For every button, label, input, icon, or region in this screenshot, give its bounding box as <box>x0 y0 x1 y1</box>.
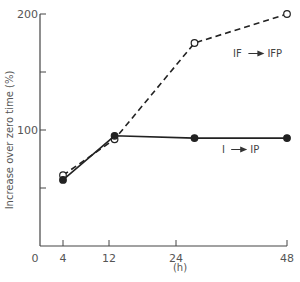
series-label-from: I <box>222 144 225 155</box>
filled-circle-marker <box>111 133 118 140</box>
filled-circle-marker <box>284 135 291 142</box>
x-axis-label: (h) <box>173 262 187 273</box>
series-label-to: IP <box>250 144 259 155</box>
series-label-to: IFP <box>267 48 282 59</box>
axes: 10020004122448(h)Increase over zero time… <box>4 8 294 273</box>
series-line-1 <box>63 136 287 180</box>
series-label-i-ip: IIP <box>222 144 259 155</box>
x-tick-label: 0 <box>32 252 39 265</box>
x-tick-label: 12 <box>102 252 116 265</box>
filled-circle-marker <box>60 177 67 184</box>
open-circle-marker <box>191 40 198 47</box>
labels-layer: IFIFPIIP <box>222 48 282 155</box>
arrow-head-icon <box>240 147 247 153</box>
line-chart: 10020004122448(h)Increase over zero time… <box>0 0 300 282</box>
filled-circle-marker <box>191 135 198 142</box>
series-label-from: IF <box>233 48 242 59</box>
x-tick-label: 4 <box>60 252 67 265</box>
series-label-if-ifp: IFIFP <box>233 48 282 59</box>
arrow-head-icon <box>257 51 264 57</box>
y-tick-label: 100 <box>17 124 38 137</box>
y-tick-label: 200 <box>17 8 38 21</box>
series-layer <box>60 11 291 183</box>
x-tick-label: 48 <box>280 252 294 265</box>
y-axis-label: Increase over zero time (%) <box>4 71 15 210</box>
open-circle-marker <box>284 11 291 18</box>
